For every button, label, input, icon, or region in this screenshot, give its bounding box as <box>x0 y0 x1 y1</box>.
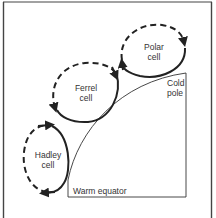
circulation-diagram: Polar cell Ferrel cell Hadley cell Cold … <box>0 0 216 218</box>
warm-equator-label: Warm equator <box>73 186 127 196</box>
hadley-cell-label-line1: Hadley <box>35 150 62 160</box>
cold-pole-label-line2: pole <box>167 88 183 98</box>
polar-cell-label-line2: cell <box>148 52 161 62</box>
hadley-cell-label-line2: cell <box>42 160 55 170</box>
hadley-cell-arrow-top <box>38 125 50 126</box>
polar-cell-label-line1: Polar <box>144 42 164 52</box>
ferrel-cell-label-line1: Ferrel <box>75 83 97 93</box>
polar-cell-arrow-left <box>122 63 123 70</box>
cold-pole-label-line1: Cold <box>167 78 185 88</box>
hadley-cell-arrow-bottom <box>44 192 55 193</box>
ferrel-cell-label-line2: cell <box>80 93 93 103</box>
